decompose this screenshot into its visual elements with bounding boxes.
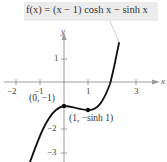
plot-area xyxy=(0,0,167,162)
y-axis xyxy=(61,32,67,162)
x-tick-neg2: −2 xyxy=(7,86,17,96)
y-axis-label: y xyxy=(61,26,65,36)
point-0-neg1 xyxy=(62,104,66,108)
leader-line xyxy=(110,21,119,42)
x-tick-1: 1 xyxy=(86,86,91,96)
x-tick-3: 3 xyxy=(134,86,139,96)
point-1-negsinh1 xyxy=(86,108,90,112)
point-label-1-negsinh1: (1, −sinh 1) xyxy=(69,113,113,123)
point-label-0-neg1: (0, −1) xyxy=(29,93,55,103)
y-tick-neg2: −2 xyxy=(47,123,57,133)
x-axis-arrow-icon xyxy=(152,80,160,85)
y-tick-neg3: −3 xyxy=(47,147,57,157)
x-axis-label: x xyxy=(161,76,165,86)
y-tick-1: 1 xyxy=(54,53,59,63)
x-axis xyxy=(4,79,160,85)
